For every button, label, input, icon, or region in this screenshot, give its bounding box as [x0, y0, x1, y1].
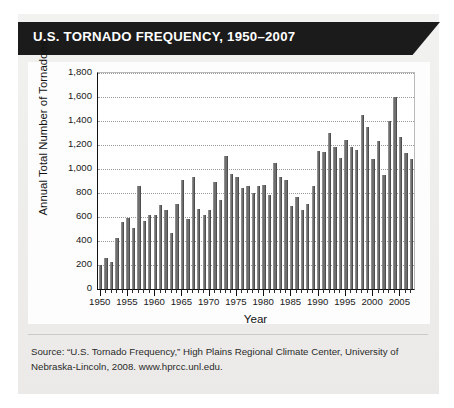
x-tick-minor [111, 289, 112, 293]
bar [197, 209, 200, 289]
y-tick-label: 200 [48, 258, 92, 269]
x-tick-minor [220, 289, 221, 293]
x-tick-minor [160, 289, 161, 293]
bar [148, 215, 151, 289]
x-tick-minor [339, 289, 340, 293]
x-tick-minor [247, 289, 248, 293]
bar [203, 215, 206, 289]
x-tick-minor [334, 289, 335, 293]
x-axis-title: Year [97, 312, 414, 325]
x-tick-major [263, 289, 264, 296]
bar [252, 193, 255, 289]
bar [312, 186, 315, 289]
x-tick-major [399, 289, 400, 296]
x-tick-minor [307, 289, 308, 293]
x-tick-minor [122, 289, 123, 293]
bar [322, 152, 325, 289]
bar [268, 195, 271, 289]
bar [328, 133, 331, 289]
bar [393, 97, 396, 289]
bar [104, 258, 107, 289]
bar [257, 186, 260, 289]
y-tick-label: 800 [48, 186, 92, 197]
x-axis-ticks [97, 289, 414, 296]
x-tick-minor [192, 289, 193, 293]
x-tick-major [345, 289, 346, 296]
bar [192, 177, 195, 289]
x-tick-major [154, 289, 155, 296]
bar [208, 210, 211, 289]
bar [241, 188, 244, 289]
bar [350, 147, 353, 289]
bar [290, 206, 293, 289]
bar [115, 238, 118, 289]
bar [284, 180, 287, 289]
x-tick-minor [383, 289, 384, 293]
y-tick-label: 600 [48, 210, 92, 221]
y-tick-label: 1,400 [48, 114, 92, 125]
x-tick-minor [149, 289, 150, 293]
x-tick-minor [198, 289, 199, 293]
y-tick-label: 1,600 [48, 90, 92, 101]
x-tick-minor [350, 289, 351, 293]
bar [99, 265, 102, 289]
bar [279, 177, 282, 289]
bar [273, 163, 276, 289]
bar [410, 159, 413, 289]
x-tick-major [181, 289, 182, 296]
bar [132, 228, 135, 289]
x-tick-minor [241, 289, 242, 293]
bar [371, 159, 374, 289]
bar [213, 182, 216, 289]
bar [170, 233, 173, 289]
bar [355, 150, 358, 289]
x-tick-major [127, 289, 128, 296]
bar [246, 186, 249, 289]
x-tick-minor [323, 289, 324, 293]
divider [28, 334, 428, 335]
bar [382, 175, 385, 289]
x-tick-minor [394, 289, 395, 293]
x-tick-minor [356, 289, 357, 293]
x-tick-minor [378, 289, 379, 293]
x-tick-minor [187, 289, 188, 293]
x-tick-minor [176, 289, 177, 293]
source-note: Source: “U.S. Tornado Frequency,” High P… [31, 345, 421, 374]
x-tick-minor [388, 289, 389, 293]
x-tick-major [209, 289, 210, 296]
bar [404, 153, 407, 289]
x-axis-tick-labels: 1950195519601965197019751980198519901995… [97, 296, 414, 310]
figure-root: U.S. TORNADO FREQUENCY, 1950–2007 Annual… [0, 0, 454, 408]
bar [306, 204, 309, 289]
bar [154, 215, 157, 289]
bar [159, 205, 162, 289]
x-tick-minor [361, 289, 362, 293]
x-tick-minor [301, 289, 302, 293]
bar [230, 174, 233, 289]
x-tick-major [236, 289, 237, 296]
bar [121, 222, 124, 289]
x-tick-minor [116, 289, 117, 293]
x-tick-minor [410, 289, 411, 293]
bar [344, 140, 347, 289]
bar [235, 177, 238, 289]
bar [301, 210, 304, 289]
bar [399, 137, 402, 289]
x-tick-major [290, 289, 291, 296]
bar [186, 219, 189, 289]
x-tick-minor [280, 289, 281, 293]
x-tick-minor [225, 289, 226, 293]
x-tick-label: 2005 [379, 296, 419, 307]
bar [143, 221, 146, 289]
bar [126, 218, 129, 289]
x-tick-minor [312, 289, 313, 293]
bar [137, 186, 140, 289]
bar [377, 141, 380, 289]
y-tick-label: 400 [48, 234, 92, 245]
plot-area [97, 72, 415, 290]
x-tick-major [372, 289, 373, 296]
x-tick-minor [138, 289, 139, 293]
bar [366, 127, 369, 289]
x-tick-minor [258, 289, 259, 293]
bar-series [98, 73, 414, 289]
